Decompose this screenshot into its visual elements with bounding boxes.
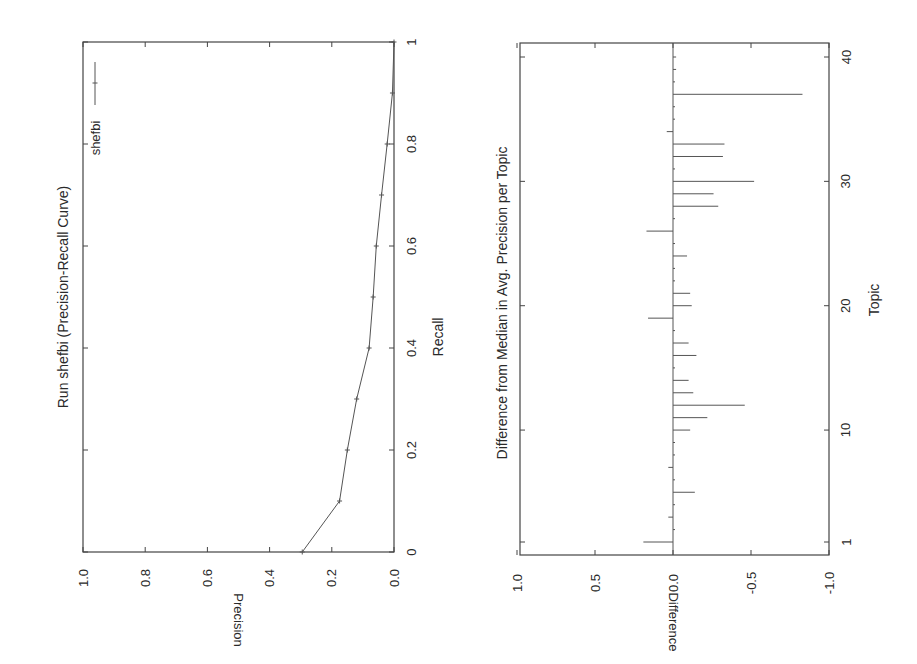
pr-series-markers bbox=[300, 40, 397, 555]
pr-recall-axis-label: Recall bbox=[430, 318, 446, 357]
difference-tick-label: -0.5 bbox=[744, 572, 759, 594]
topic-tick-label: 1 bbox=[839, 538, 854, 545]
pr-axis-ticks bbox=[83, 42, 394, 552]
difference-tick-label: 0.0 bbox=[666, 574, 681, 592]
topic-tick-label: 30 bbox=[839, 174, 854, 188]
figure-page: 00.20.40.60.810.00.20.40.60.81.0 shefbi … bbox=[0, 0, 917, 664]
topic-tick-label: 20 bbox=[839, 298, 854, 312]
precision-tick-label: 0.6 bbox=[200, 569, 215, 587]
precision-tick-label: 0.4 bbox=[262, 569, 277, 587]
difference-tick-label: 1.0 bbox=[510, 574, 525, 592]
pr-tick-labels: 00.20.40.60.810.00.20.40.60.81.0 bbox=[76, 38, 419, 587]
precision-tick-label: 0.0 bbox=[387, 569, 402, 587]
diff-plot-frame bbox=[520, 43, 829, 555]
pr-precision-axis-label: Precision bbox=[231, 593, 246, 646]
difference-per-topic-chart: 1102030401.00.50.0-0.5-1.0 Difference fr… bbox=[494, 43, 882, 652]
diff-bars bbox=[643, 57, 802, 542]
precision-tick-label: 0.2 bbox=[324, 569, 339, 587]
recall-tick-label: 0 bbox=[404, 548, 419, 555]
topic-tick-label: 10 bbox=[839, 423, 854, 437]
legend-label: shefbi bbox=[88, 121, 103, 156]
diff-difference-axis-label: Difference bbox=[666, 592, 681, 651]
pr-plot-frame bbox=[83, 42, 394, 552]
precision-tick-label: 0.8 bbox=[138, 569, 153, 587]
diff-topic-axis-label: Topic bbox=[866, 284, 882, 317]
precision-tick-label: 1.0 bbox=[76, 569, 91, 587]
recall-tick-label: 1 bbox=[404, 38, 419, 45]
recall-tick-label: 0.2 bbox=[404, 441, 419, 459]
diff-chart-title: Difference from Median in Avg. Precision… bbox=[494, 147, 510, 460]
diff-tick-labels: 1102030401.00.50.0-0.5-1.0 bbox=[510, 50, 854, 594]
recall-tick-label: 0.4 bbox=[404, 339, 419, 357]
precision-recall-chart: 00.20.40.60.810.00.20.40.60.81.0 shefbi … bbox=[55, 38, 446, 646]
topic-tick-label: 40 bbox=[839, 50, 854, 64]
difference-tick-label: 0.5 bbox=[588, 574, 603, 592]
difference-tick-label: -1.0 bbox=[822, 572, 837, 594]
pr-series-line bbox=[302, 42, 394, 552]
recall-tick-label: 0.6 bbox=[404, 237, 419, 255]
pr-chart-title: Run shefbi (Precision-Recall Curve) bbox=[55, 186, 71, 409]
recall-tick-label: 0.8 bbox=[404, 135, 419, 153]
figure-svg: 00.20.40.60.810.00.20.40.60.81.0 shefbi … bbox=[0, 0, 917, 664]
pr-legend: shefbi bbox=[88, 62, 103, 155]
